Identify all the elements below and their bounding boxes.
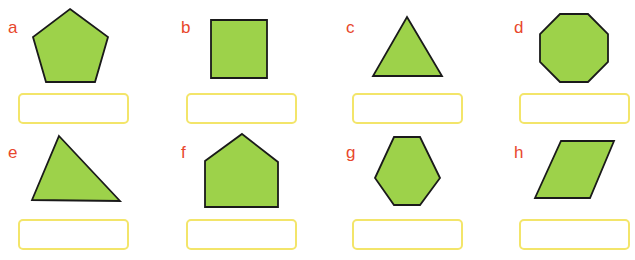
item-label-e: e [8,144,17,161]
answer-box-c[interactable] [352,93,463,124]
pentagon-shape-f [205,134,278,207]
item-label-a: a [8,19,17,36]
pentagon-shape-a [33,9,108,82]
item-label-g: g [346,144,355,161]
octagon-shape-d [540,14,608,82]
answer-box-h[interactable] [519,219,630,250]
answer-box-g[interactable] [352,219,463,250]
answer-box-a[interactable] [18,93,129,124]
answer-box-d[interactable] [519,93,630,124]
square-shape-b [211,20,267,78]
triangle-shape-e [32,136,120,201]
answer-box-f[interactable] [186,219,297,250]
hexagon-shape-g [375,137,440,205]
triangle-shape-c [373,17,442,76]
item-label-f: f [181,144,186,161]
item-label-b: b [181,19,190,36]
item-label-d: d [514,19,523,36]
item-label-h: h [514,144,523,161]
answer-box-e[interactable] [18,219,129,250]
parallelogram-shape-h [535,141,614,198]
answer-box-b[interactable] [186,93,297,124]
item-label-c: c [346,19,355,36]
